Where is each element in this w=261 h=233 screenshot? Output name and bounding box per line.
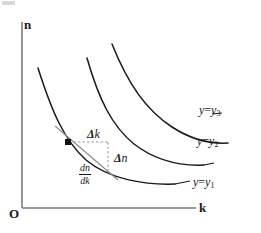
delta-n-variable: n — [122, 151, 128, 165]
curve-label-y3-index: 3 — [216, 109, 220, 118]
curve-label-y1-index: 1 — [210, 181, 214, 190]
origin-label: O — [9, 207, 19, 220]
label-leader-y1 — [175, 181, 190, 184]
curve-label-y2-index: 2 — [214, 140, 218, 149]
tangency-point-marker — [65, 139, 71, 145]
isoquant-curve-y3 — [112, 44, 228, 143]
curve-label-y3: y=y3 — [199, 104, 220, 116]
isoquant-curve-y2 — [87, 58, 204, 165]
isoquant-curve-y1 — [38, 68, 175, 184]
y-axis-label: n — [24, 18, 31, 31]
derivative-numerator: dn — [79, 163, 91, 174]
diagram-canvas — [0, 0, 261, 233]
x-axis-label: k — [199, 201, 206, 214]
curve-label-y1: y=y1 — [193, 176, 214, 188]
derivative-label: dn dk — [79, 163, 91, 186]
curve-label-y2: y=y2 — [197, 135, 218, 147]
delta-n-symbol: Δ — [114, 151, 122, 165]
delta-n-label: Δn — [114, 152, 128, 164]
delta-k-label: Δk — [87, 128, 100, 140]
derivative-denominator: dk — [79, 176, 91, 187]
delta-k-symbol: Δ — [87, 127, 95, 141]
delta-k-variable: k — [95, 127, 100, 141]
isoquant-diagram: n k O y=y1 y=y2 y=y3 Δk Δn dn dk — [0, 0, 261, 233]
label-leader-y2 — [204, 163, 214, 165]
